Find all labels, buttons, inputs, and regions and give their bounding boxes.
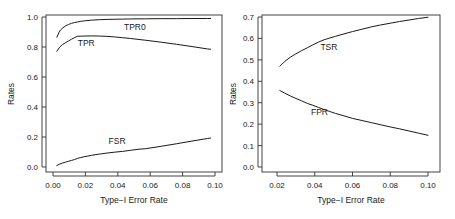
right-y-ticks [258, 17, 262, 167]
left-ytick-5: 1.0 [27, 13, 39, 22]
right-x-ticks [277, 172, 428, 176]
series-label-tpr: TPR [78, 38, 95, 48]
right-curves [280, 17, 428, 135]
right-ytick-0: 0.0 [243, 163, 255, 172]
left-xtick-2: 0.04 [110, 181, 126, 190]
curve-fpr [280, 91, 428, 136]
left-ytick-4: 0.8 [27, 43, 39, 52]
right-y-axis: 0.7 0.6 0.5 0.4 0.3 0.2 0.1 0.0 [243, 13, 262, 172]
left-y-axis: 1.0 0.8 0.6 0.4 0.2 0.0 [27, 13, 46, 172]
right-xtick-0: 0.02 [269, 181, 285, 190]
right-x-axis-title: Type−I Error Rate [317, 195, 385, 205]
chart-panel-left: 1.0 0.8 0.6 0.4 0.2 0.0 0.00 [0, 0, 228, 219]
left-xtick-1: 0.02 [78, 181, 94, 190]
series-label-tpr0: TPR0 [124, 22, 146, 32]
right-ytick-4: 0.4 [243, 77, 255, 86]
curve-fsr [57, 138, 211, 165]
right-ytick-1: 0.1 [243, 142, 255, 151]
right-ytick-7: 0.7 [243, 13, 255, 22]
left-x-ticks [53, 172, 215, 176]
right-xtick-1: 0.04 [307, 181, 323, 190]
left-plot-svg: 1.0 0.8 0.6 0.4 0.2 0.0 0.00 [0, 0, 228, 219]
curve-tsr [280, 17, 428, 66]
left-ytick-3: 0.6 [27, 73, 39, 82]
left-xtick-3: 0.06 [142, 181, 158, 190]
right-xtick-2: 0.06 [345, 181, 361, 190]
right-xtick-3: 0.08 [382, 181, 398, 190]
left-x-axis: 0.00 0.02 0.04 0.06 0.08 0.10 [45, 172, 223, 190]
left-ytick-1: 0.2 [27, 133, 39, 142]
right-ytick-6: 0.6 [243, 34, 255, 43]
left-xtick-0: 0.00 [45, 181, 61, 190]
left-y-axis-title: Rates [6, 83, 16, 105]
right-plot-svg: 0.7 0.6 0.5 0.4 0.3 0.2 0.1 0.0 [228, 0, 455, 219]
right-ytick-5: 0.5 [243, 56, 255, 65]
right-ytick-2: 0.2 [243, 120, 255, 129]
left-y-ticks [42, 17, 46, 167]
left-ytick-0: 0.0 [27, 163, 39, 172]
left-ytick-2: 0.4 [27, 103, 39, 112]
left-xtick-5: 0.10 [207, 181, 223, 190]
series-label-tsr: TSR [320, 42, 337, 52]
right-x-axis: 0.02 0.04 0.06 0.08 0.10 [269, 172, 436, 190]
chart-panel-right: 0.7 0.6 0.5 0.4 0.3 0.2 0.1 0.0 [228, 0, 455, 219]
left-x-axis-title: Type−I Error Rate [100, 195, 168, 205]
series-label-fpr: FPR [311, 107, 328, 117]
figure-container: 1.0 0.8 0.6 0.4 0.2 0.0 0.00 [0, 0, 455, 219]
right-ytick-3: 0.3 [243, 99, 255, 108]
right-plot-frame [262, 15, 440, 172]
series-label-fsr: FSR [109, 136, 126, 146]
left-xtick-4: 0.08 [175, 181, 191, 190]
right-y-axis-title: Rates [228, 83, 238, 105]
right-xtick-4: 0.10 [420, 181, 436, 190]
